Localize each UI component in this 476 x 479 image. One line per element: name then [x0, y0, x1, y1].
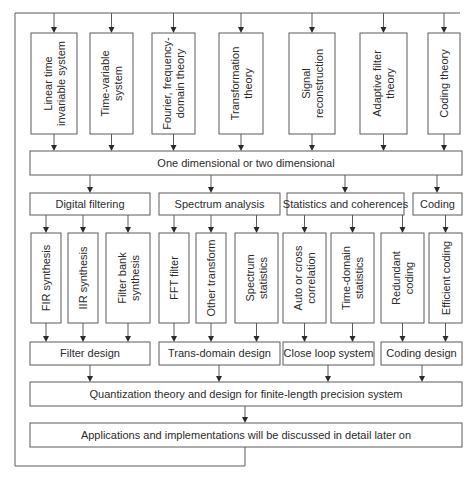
category-label: Spectrum analysis [175, 198, 265, 210]
method-label: IIR synthesis [77, 246, 89, 309]
arrow-icon [80, 215, 86, 233]
method-label: correlation [305, 252, 317, 303]
theory-label: system [112, 66, 124, 101]
arrow-icon [309, 13, 315, 33]
design-label: Close loop system [284, 347, 374, 359]
method-label: Other transform [205, 239, 217, 316]
dimension-box: One dimensional or two dimensional [30, 151, 462, 175]
arrow-icon [400, 323, 406, 342]
theory-row: Linear timeinvariable systemTime-variabl… [31, 33, 460, 134]
arrow-icon [342, 175, 348, 193]
arrow-icon [443, 323, 449, 342]
theory-label: domain theory [174, 48, 186, 118]
design-row: Filter designTrans-domain designClose lo… [30, 342, 462, 382]
quantization-label: Quantization theory and design for finit… [89, 388, 402, 400]
method-box: IIR synthesis [68, 233, 98, 323]
method-label: Efficient coding [440, 241, 452, 315]
arrow-icon [171, 215, 177, 233]
arrow-icon [242, 406, 248, 423]
arrow-icon [109, 13, 115, 33]
arrow-icon [208, 323, 214, 342]
applications-box: Applications and implementations will be… [30, 423, 462, 447]
arrow-icon [400, 215, 406, 233]
category-row: Digital filteringSpectrum analysisStatis… [30, 175, 462, 215]
arrow-icon [125, 323, 131, 342]
quantization-box: Quantization theory and design for finit… [30, 382, 462, 406]
arrow-icon [125, 215, 131, 233]
arrow-icon [87, 175, 93, 193]
theory-label: Adaptive filter [371, 50, 383, 117]
category-box: Coding [413, 193, 462, 215]
method-label: Auto or cross [292, 245, 304, 310]
arrow-icon [302, 323, 308, 342]
theory-label: Transformation [229, 47, 241, 121]
method-row: FIR synthesisIIR synthesisFilter banksyn… [31, 215, 462, 342]
design-box: Filter design [30, 342, 150, 365]
arrow-icon [350, 215, 356, 233]
arrow-icon [441, 134, 447, 151]
method-box: Efficient coding [429, 233, 462, 323]
method-label: Spectrum [244, 254, 256, 301]
theory-label: theory [384, 68, 396, 99]
arrow-quant-to-apps [242, 406, 248, 423]
category-label: Digital filtering [55, 198, 124, 210]
arrow-icon [171, 13, 177, 33]
arrow-icon [350, 323, 356, 342]
arrow-icon [441, 13, 447, 33]
method-label: coding [403, 262, 415, 294]
method-label: FIR synthesis [40, 244, 52, 311]
method-label: Redundant [390, 251, 402, 305]
theory-box-transform: Transformationtheory [219, 33, 263, 134]
method-box: Spectrumstatistics [235, 233, 278, 323]
arrow-icon [171, 323, 177, 342]
theory-box-linear: Linear timeinvariable system [31, 33, 77, 134]
method-label: Time-domain [340, 246, 352, 310]
arrow-icon [51, 134, 57, 151]
arrow-icon [325, 365, 331, 382]
design-box: Close loop system [283, 342, 374, 365]
category-box: Digital filtering [30, 193, 150, 215]
theory-box-fourier: Fourier, frequency-domain theory [152, 33, 195, 134]
arrow-icon [51, 13, 57, 33]
design-label: Filter design [60, 347, 120, 359]
arrow-icon [443, 215, 449, 233]
method-label: Filter bank [116, 252, 128, 304]
method-label: FFT filter [168, 256, 180, 300]
arrow-icon [208, 175, 214, 193]
arrow-icon [43, 323, 49, 342]
theory-box-coding: Coding theory [428, 33, 460, 134]
applications-label: Applications and implementations will be… [81, 429, 411, 441]
arrow-icon [434, 175, 440, 193]
arrow-icon [254, 323, 260, 342]
arrow-icon [80, 323, 86, 342]
method-box: Other transform [196, 233, 226, 323]
arrow-icon [254, 215, 260, 233]
design-label: Trans-domain design [168, 347, 271, 359]
theory-label: invariable system [55, 41, 67, 126]
flow-diagram: Linear timeinvariable systemTime-variabl… [0, 0, 476, 479]
arrow-icon [109, 134, 115, 151]
design-box: Trans-domain design [159, 342, 280, 365]
theory-label: Time-variable [99, 50, 111, 116]
theory-label: reconstruction [313, 49, 325, 118]
arrow-icon [309, 134, 315, 151]
theory-label: Signal [300, 68, 312, 99]
method-box: FFT filter [159, 233, 189, 323]
theory-box-timevar: Time-variablesystem [90, 33, 133, 134]
design-label: Coding design [386, 347, 456, 359]
theory-label: Coding theory [438, 49, 450, 118]
arrow-icon [238, 134, 244, 151]
method-box: Auto or crosscorrelation [283, 233, 326, 323]
arrow-icon [43, 215, 49, 233]
arrow-icon [87, 365, 93, 382]
theory-label: Linear time [42, 56, 54, 110]
theory-label: theory [242, 68, 254, 99]
arrow-icon [419, 365, 425, 382]
arrow-icon [302, 215, 308, 233]
category-box: Statistics and coherences [283, 193, 409, 215]
category-box: Spectrum analysis [159, 193, 280, 215]
arrow-icon [171, 134, 177, 151]
arrow-icon [238, 13, 244, 33]
category-label: Coding [420, 198, 455, 210]
arrow-icon [216, 365, 222, 382]
